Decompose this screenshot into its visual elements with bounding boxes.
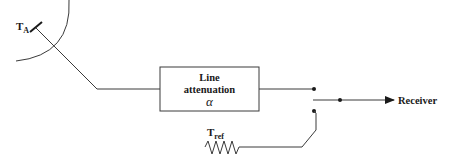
antenna-feed-tick [30, 22, 42, 32]
antenna-to-attenuator-wire [36, 28, 160, 89]
antenna-temperature-label: TA [16, 20, 29, 35]
attenuator-label-line1: Line [199, 72, 220, 83]
switch-common-node [338, 98, 342, 102]
radiometer-diagram: TA Line attenuation α Receiver Tref [0, 0, 449, 166]
reference-resistor [205, 141, 241, 154]
reference-to-switch-wire [241, 111, 316, 147]
attenuation-alpha-symbol: α [206, 94, 214, 109]
receiver-label: Receiver [398, 95, 437, 106]
switch-contact-top [312, 87, 316, 91]
reference-temperature-label: Tref [207, 126, 224, 141]
